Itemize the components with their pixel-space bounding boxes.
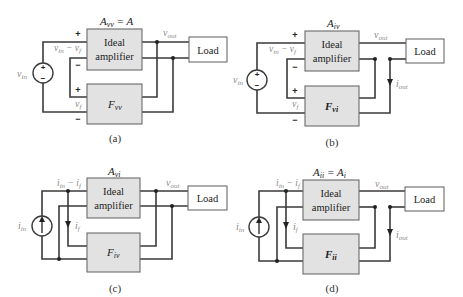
amp-input-plus: +: [75, 29, 80, 39]
wire-amp-ref: [277, 207, 303, 261]
source-minus: −: [255, 81, 260, 90]
ideal-amplifier-block: [305, 31, 359, 71]
fb-output-minus: −: [75, 114, 80, 124]
caption-d: (d): [326, 282, 339, 295]
wire-fb-sense-top: [359, 207, 375, 248]
wire-input-top: [259, 191, 303, 217]
caption-b: (b): [326, 136, 339, 149]
junction-dot: [66, 189, 70, 193]
output-voltage-label: vout: [166, 177, 180, 190]
wire-input-bottom: [42, 236, 87, 259]
output-voltage-label: vout: [163, 27, 177, 40]
amplifier-label-line1: Ideal: [321, 188, 342, 199]
feedback-current-label: if: [293, 221, 299, 234]
amplifier-label-line2: amplifier: [94, 200, 133, 211]
panel-b: + − Aiv Ideal amplifier Fvi Load vin vin…: [233, 17, 444, 149]
ideal-amplifier-block: [87, 29, 142, 70]
amp-input-minus: −: [75, 60, 80, 70]
feedback-signal-label: vf: [292, 98, 299, 111]
junction-dot: [373, 205, 377, 209]
wire-fb-sense-top: [359, 59, 375, 98]
junction-dot: [388, 205, 392, 209]
error-signal-label: vin − vf: [269, 44, 297, 56]
amplifier-label-line1: Ideal: [322, 39, 343, 50]
caption-c: (c): [109, 282, 122, 295]
junction-dot: [155, 40, 159, 44]
source-current-label: iin: [18, 220, 27, 233]
output-current-arrow-icon: [387, 229, 393, 236]
fb-output-minus: −: [292, 115, 297, 125]
output-current-label: iout: [396, 229, 409, 242]
amplifier-label-line2: amplifier: [312, 202, 351, 213]
source-current-label: iin: [236, 221, 245, 234]
junction-dot: [170, 204, 174, 208]
feedback-amplifier-figure: + − Avv = A Ideal amplifier Fvv Load vin…: [0, 0, 463, 297]
junction-dot: [275, 259, 279, 263]
output-voltage-label: vout: [375, 178, 389, 191]
load-label: Load: [414, 46, 436, 57]
wire-input-top: [42, 191, 87, 216]
fb-output-plus: +: [75, 85, 80, 95]
feedback-signal-label: vf: [75, 98, 82, 111]
source-plus: +: [255, 70, 260, 79]
load-label: Load: [197, 45, 219, 56]
panel-c: Avi Ideal amplifier Fiv Load iin iin − i…: [18, 165, 227, 295]
amplifier-label-line1: Ideal: [104, 37, 125, 48]
gain-label: Aii = Ai: [312, 166, 346, 180]
source-minus: −: [41, 74, 46, 83]
wire-fb-sense-top: [140, 191, 156, 246]
error-signal-label: vin − vf: [54, 43, 82, 55]
output-voltage-label: vout: [374, 29, 388, 42]
gain-label: Avv = A: [99, 15, 134, 29]
feedback-current-arrow-icon: [65, 221, 71, 228]
wire-feedback-tap: [286, 191, 303, 248]
ideal-amplifier-block: [87, 178, 140, 218]
error-signal-label: iin − if: [57, 178, 82, 190]
amplifier-label-line1: Ideal: [103, 186, 124, 197]
error-signal-label: iin − if: [276, 178, 301, 190]
wire-input-bottom: [259, 237, 303, 261]
feedback-current-label: if: [75, 220, 81, 233]
junction-dot: [373, 57, 377, 61]
gain-label: Aiv: [326, 17, 340, 31]
wire-feedback-tap: [68, 191, 87, 246]
junction-dot: [284, 189, 288, 193]
caption-a: (a): [109, 132, 122, 145]
panel-a: + − Avv = A Ideal amplifier Fvv Load vin…: [17, 15, 227, 145]
load-label: Load: [414, 194, 436, 205]
source-voltage-label: vin: [17, 68, 27, 81]
amplifier-label-line2: amplifier: [313, 53, 352, 64]
source-plus: +: [41, 63, 46, 72]
amplifier-label-line2: amplifier: [95, 51, 134, 62]
fb-output-plus: +: [292, 86, 297, 96]
load-label: Load: [197, 193, 219, 204]
panel-d: Aii = Ai Ideal amplifier Fii Load iin ii…: [236, 166, 444, 295]
source-voltage-label: vin: [233, 74, 243, 87]
wire-amp-ref: [59, 206, 87, 259]
junction-dot: [154, 189, 158, 193]
feedback-current-arrow-icon: [283, 222, 289, 229]
amp-input-minus: −: [292, 62, 297, 72]
gain-label: Avi: [107, 165, 121, 179]
output-current-arrow-icon: [387, 79, 393, 86]
junction-dot: [388, 57, 392, 61]
junction-dot: [171, 56, 175, 60]
amp-input-plus: +: [292, 30, 297, 40]
wire-fb-sense-top: [142, 42, 157, 97]
output-current-label: iout: [396, 78, 409, 91]
junction-dot: [57, 257, 61, 261]
ideal-amplifier-block: [303, 180, 359, 220]
